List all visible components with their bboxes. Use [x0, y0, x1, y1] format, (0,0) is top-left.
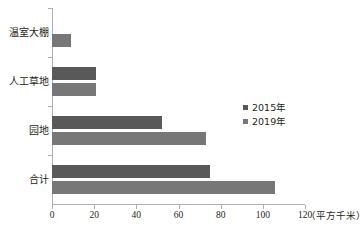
legend-label-2019: 2019年: [252, 114, 286, 128]
x-axis-tick: [305, 205, 306, 209]
legend-label-2015: 2015年: [252, 100, 286, 114]
legend-item-2019[interactable]: 2019年: [243, 114, 286, 128]
x-axis-tick: [221, 205, 222, 209]
y-axis-label-wenshidapeng: 温室大棚: [9, 27, 49, 38]
bar-2015年-人工草地: [52, 67, 96, 80]
y-axis-tick: [48, 106, 52, 107]
bar-2015年-合计: [52, 165, 210, 178]
x-axis-tick: [94, 205, 95, 209]
x-axis-tick-label: 0: [37, 210, 67, 221]
legend: 2015年 2019年: [243, 100, 286, 128]
legend-swatch-icon-2015: [243, 105, 248, 110]
bar-2019年-合计: [52, 181, 275, 194]
legend-swatch-icon-2019: [243, 119, 248, 124]
y-axis-tick: [48, 155, 52, 156]
x-axis-tick-label: 100: [248, 210, 278, 221]
legend-item-2015[interactable]: 2015年: [243, 100, 286, 114]
y-axis-tick: [48, 8, 52, 9]
bar-2019年-园地: [52, 132, 206, 145]
bar-2019年-人工草地: [52, 83, 96, 96]
y-axis-tick: [48, 57, 52, 58]
x-axis-tick: [263, 205, 264, 209]
x-axis-tick: [136, 205, 137, 209]
bar-2019年-温室大棚: [52, 34, 71, 47]
x-axis-tick: [52, 205, 53, 209]
y-axis-label-yuandi: 园地: [29, 125, 49, 136]
x-axis-unit-label: （平方千米）: [306, 210, 364, 221]
x-axis-tick-label: 60: [164, 210, 194, 221]
x-axis-tick-label: 40: [121, 210, 151, 221]
bar-2015年-园地: [52, 116, 162, 129]
x-axis-tick-label: 20: [79, 210, 109, 221]
y-axis-label-rengongcaodi: 人工草地: [9, 76, 49, 87]
x-axis-tick: [179, 205, 180, 209]
y-axis-label-heji: 合计: [29, 174, 49, 185]
x-axis-tick-label: 80: [206, 210, 236, 221]
